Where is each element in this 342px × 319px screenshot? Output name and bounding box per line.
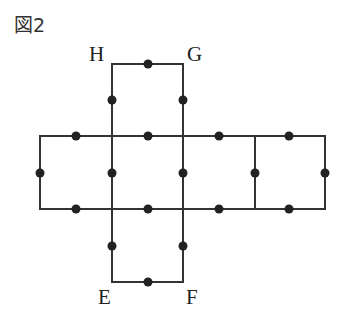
vertex-label-g: G <box>187 42 202 67</box>
cube-net-diagram <box>0 0 342 319</box>
vertex-label-e: E <box>98 285 111 310</box>
vertex-label-f: F <box>186 285 198 310</box>
vertex-label-h: H <box>89 42 104 67</box>
